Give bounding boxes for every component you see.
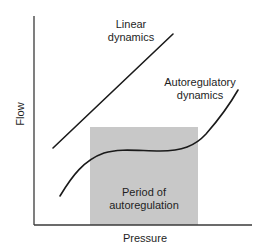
autoregulatory-dynamics-label: Autoregulatory dynamics bbox=[150, 76, 250, 102]
period-label-line2: autoregulation bbox=[90, 199, 198, 212]
linear-dynamics-label: Linear dynamics bbox=[96, 18, 166, 44]
linear-label-line1: Linear bbox=[96, 18, 166, 31]
auto-label-line1: Autoregulatory bbox=[150, 76, 250, 89]
x-axis-label: Pressure bbox=[100, 232, 190, 245]
period-of-autoregulation-label: Period of autoregulation bbox=[90, 186, 198, 212]
auto-label-line2: dynamics bbox=[150, 89, 250, 102]
period-label-line1: Period of bbox=[90, 186, 198, 199]
y-axis-label: Flow bbox=[14, 94, 27, 134]
linear-label-line2: dynamics bbox=[96, 31, 166, 44]
